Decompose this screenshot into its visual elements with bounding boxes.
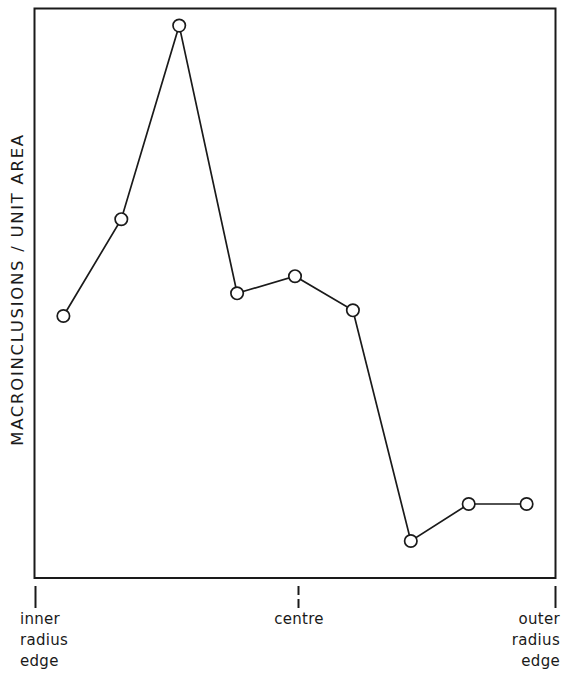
chart-figure: MACROINCLUSIONS / UNIT AREA inner radius…: [0, 0, 568, 681]
x-tick-label-inner-radius-edge: inner radius edge: [20, 609, 68, 672]
data-point-8: [463, 498, 475, 510]
data-point-1: [57, 310, 69, 322]
plot-frame: [35, 9, 556, 579]
x-tick-label-outer-radius-edge: outer radius edge: [512, 609, 560, 672]
data-point-4: [231, 287, 243, 299]
data-point-3: [173, 19, 185, 31]
data-point-5: [289, 270, 301, 282]
x-tick-label-centre: centre: [264, 609, 334, 630]
data-point-2: [115, 213, 127, 225]
data-point-7: [405, 535, 417, 547]
data-point-9: [520, 498, 532, 510]
data-point-6: [347, 304, 359, 316]
plot-area: [0, 0, 568, 681]
